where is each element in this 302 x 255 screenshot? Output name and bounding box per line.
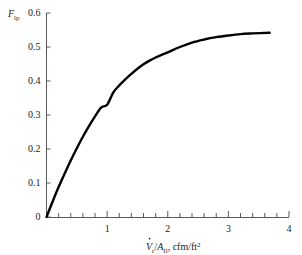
chart-figure: 00.10.20.30.40.50.6 1234 Flp Vr/Afl, cfm…: [0, 0, 302, 255]
line-chart: 00.10.20.30.40.50.6 1234 Flp Vr/Afl, cfm…: [0, 0, 302, 255]
v-dot-accent: [149, 238, 151, 240]
chart-background: [0, 0, 302, 255]
y-tick-label: 0.5: [28, 41, 41, 52]
x-tick-label: 1: [105, 223, 110, 234]
y-tick-label: 0.6: [28, 7, 41, 18]
y-tick-label: 0.1: [28, 177, 41, 188]
y-tick-label: 0.4: [28, 75, 41, 86]
y-tick-label: 0: [36, 211, 41, 222]
x-tick-label: 3: [226, 223, 231, 234]
x-tick-label: 4: [287, 223, 292, 234]
y-tick-label: 0.2: [28, 143, 41, 154]
x-tick-label: 2: [165, 223, 170, 234]
y-tick-label: 0.3: [28, 109, 41, 120]
